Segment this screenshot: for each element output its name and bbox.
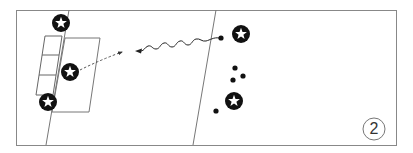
player-star-icon (39, 93, 57, 111)
player-star-icon (61, 63, 79, 81)
dribble-path (141, 38, 219, 51)
arrowhead-icon (135, 49, 142, 54)
goal-icon (36, 36, 62, 95)
drill-diagram (0, 0, 413, 153)
pass-path (80, 52, 122, 70)
step-number-label: 2 (364, 119, 384, 139)
halfway-line (193, 10, 216, 145)
ball-icon (240, 73, 245, 78)
player-star-icon (52, 14, 70, 32)
ball-icon (218, 35, 223, 40)
player-star-icon (232, 25, 250, 43)
ball-icon (230, 77, 235, 82)
player-star-icon (225, 92, 243, 110)
ball-icon (232, 65, 237, 70)
ball-icon (213, 108, 218, 113)
